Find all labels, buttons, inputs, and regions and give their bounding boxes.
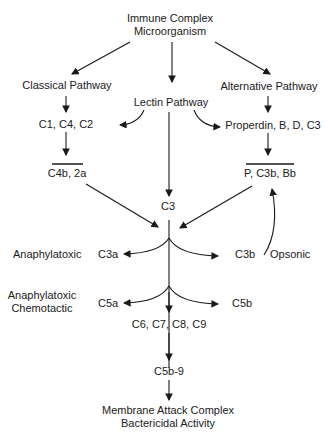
late-components-label: C6, C7, C8, C9 xyxy=(132,318,207,331)
c5a-effect-line-1: Anaphylatoxic xyxy=(8,289,77,302)
outcome-line-1: Membrane Attack Complex xyxy=(102,404,234,417)
c3b-label: C3b xyxy=(235,248,255,261)
c3a-effect-label: Anaphylatoxic xyxy=(13,248,82,261)
trigger-label: Immune Complex Microorganism xyxy=(127,12,213,38)
alternative-components: Properdin, B, D, C3 xyxy=(225,119,320,132)
outcome-label: Membrane Attack Complex Bactericidal Act… xyxy=(102,404,234,430)
c5b-label: C5b xyxy=(232,297,252,310)
trigger-line-1: Immune Complex xyxy=(127,12,213,25)
classical-convertase: C4b, 2a xyxy=(48,167,87,180)
c3b-effect-label: Opsonic xyxy=(270,248,310,261)
c3a-label: C3a xyxy=(98,248,118,261)
classical-pathway-label: Classical Pathway xyxy=(22,79,111,92)
c5b9-label: C5b-9 xyxy=(154,365,184,378)
c5a-label: C5a xyxy=(98,297,118,310)
outcome-line-2: Bactericidal Activity xyxy=(102,417,234,430)
c3-label: C3 xyxy=(161,200,175,213)
trigger-line-2: Microorganism xyxy=(127,25,213,38)
alternative-pathway-label: Alternative Pathway xyxy=(220,80,317,93)
classical-components: C1, C4, C2 xyxy=(39,118,93,131)
c5a-effect-label: Anaphylatoxic Chemotactic xyxy=(8,289,77,315)
c5a-effect-line-2: Chemotactic xyxy=(8,302,77,315)
alternative-convertase: P, C3b, Bb xyxy=(244,167,296,180)
lectin-pathway-label: Lectin Pathway xyxy=(134,96,209,109)
